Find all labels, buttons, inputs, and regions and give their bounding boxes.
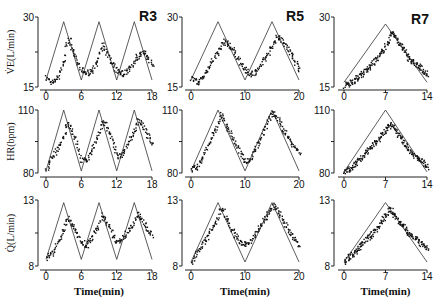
x-tick-label: 20 [293,271,305,282]
x-tick-label: 0 [188,91,194,102]
measured-scatter [343,122,429,174]
measured-scatter [343,31,429,89]
x-tick-label: 0 [188,271,194,282]
x-tick-label: 20 [293,91,305,102]
x-tick-label: 0 [43,179,49,190]
x-axis-label: Time(min) [74,285,124,298]
x-tick-label: 18 [146,179,158,190]
work-rate-line [344,24,427,82]
measured-scatter [191,203,301,265]
x-tick-label: 18 [146,271,158,282]
plot-r7-q: 8130714Time(min) [319,195,433,298]
y-tick-label: 30 [319,12,331,23]
y-tick-label: 110 [162,105,178,116]
figure-grid: 153006121815300102015300714V̇E(L/min)801… [0,0,442,303]
plot-r3-hr: 80110061218 [18,105,158,190]
x-tick-label: 20 [293,179,305,190]
y-tick-label: 30 [167,12,179,23]
x-tick-label: 7 [383,271,389,282]
plot-r3-q: 813061218Time(min) [23,195,158,298]
x-axis-label: Time(min) [220,285,270,298]
measured-scatter [45,38,155,85]
measured-scatter [344,207,429,265]
x-tick-label: 0 [341,179,347,190]
work-rate-line [46,110,152,171]
y-axis-label: V̇E(L/min) [5,30,17,74]
x-tick-label: 0 [43,271,49,282]
x-tick-label: 10 [239,91,251,102]
y-tick-label: 8 [172,261,178,272]
y-tick-label: 8 [324,261,330,272]
x-tick-label: 14 [421,179,433,190]
work-rate-line [344,203,427,262]
measured-scatter [46,212,154,261]
y-tick-label: 30 [23,12,35,23]
plot-r5-ve: 153001020 [167,12,305,102]
x-tick-label: 12 [111,91,123,102]
x-tick-label: 14 [421,271,433,282]
y-axis-label: HR(bpm) [5,122,17,160]
measured-scatter [190,35,301,86]
x-tick-label: 0 [341,91,347,102]
x-axis-label: Time(min) [361,285,411,298]
x-tick-label: 18 [146,91,158,102]
measured-scatter [45,118,154,171]
x-tick-label: 0 [188,179,194,190]
y-tick-label: 110 [314,105,330,116]
y-tick-label: 110 [18,105,34,116]
x-tick-label: 0 [43,91,49,102]
plot-r5-hr: 8011001020 [162,105,305,190]
column-label-r3: R3 [139,8,157,24]
y-tick-label: 15 [319,82,331,93]
y-axis-label: Q̇(L/min) [5,214,17,252]
y-tick-label: 8 [28,261,34,272]
x-tick-label: 10 [239,271,251,282]
y-tick-label: 13 [167,195,179,206]
x-tick-label: 12 [111,179,123,190]
measured-scatter [191,111,302,172]
plot-r5-q: 81301020Time(min) [167,195,305,298]
work-rate-line [46,203,152,260]
column-label-r5: R5 [286,8,304,24]
y-tick-label: 80 [319,168,331,179]
work-rate-line [191,203,299,262]
x-tick-label: 12 [111,271,123,282]
x-tick-label: 14 [421,91,433,102]
x-tick-label: 6 [79,179,85,190]
x-tick-label: 6 [79,271,85,282]
column-label-r7: R7 [411,11,429,27]
y-tick-label: 80 [167,168,179,179]
plot-r7-hr: 801100714 [314,105,433,190]
y-tick-label: 13 [319,195,331,206]
x-tick-label: 7 [383,91,389,102]
x-tick-label: 0 [341,271,347,282]
y-tick-label: 13 [23,195,35,206]
work-rate-line [46,22,152,80]
x-tick-label: 7 [383,179,389,190]
y-tick-label: 15 [23,82,35,93]
y-tick-label: 80 [23,168,35,179]
x-tick-label: 10 [239,179,251,190]
x-tick-label: 6 [79,91,85,102]
y-tick-label: 15 [167,82,179,93]
plot-r3-ve: 1530061218 [23,12,158,102]
